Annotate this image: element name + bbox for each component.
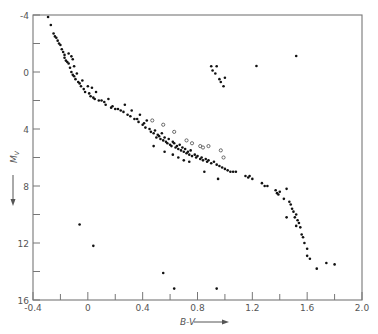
star-point xyxy=(300,233,303,236)
star-point xyxy=(302,236,305,239)
star-point xyxy=(136,118,139,121)
star-point xyxy=(283,198,286,201)
star-point xyxy=(162,139,165,142)
star-point xyxy=(261,182,264,185)
star-point xyxy=(143,122,146,125)
open-star-point xyxy=(185,139,188,142)
star-point xyxy=(210,65,213,68)
y-axis-title: MV xyxy=(9,150,20,163)
star-point xyxy=(73,65,76,68)
x-axis: -0.400.40.81.21.62.0 xyxy=(24,292,369,313)
star-point xyxy=(299,226,302,229)
star-point xyxy=(107,98,110,101)
star-point xyxy=(124,103,127,106)
y-axis-arrowhead xyxy=(11,199,16,206)
star-point xyxy=(295,55,298,58)
star-point xyxy=(161,132,164,135)
star-point xyxy=(211,69,214,72)
hr-diagram: -0.400.40.81.21.62.0 -40481216 B-V MV xyxy=(0,0,378,334)
star-point xyxy=(71,58,74,61)
star-point xyxy=(333,263,336,266)
star-point xyxy=(104,103,107,106)
star-point xyxy=(306,247,309,250)
star-point xyxy=(214,72,217,75)
star-point xyxy=(203,170,206,173)
star-point xyxy=(278,190,281,193)
star-point xyxy=(129,115,132,118)
star-point xyxy=(73,75,76,78)
star-point xyxy=(224,168,227,171)
star-point xyxy=(87,85,90,88)
star-point xyxy=(306,255,309,258)
star-point xyxy=(218,165,221,168)
star-point xyxy=(220,81,223,84)
star-point xyxy=(81,79,84,82)
star-point xyxy=(92,245,95,248)
star-point xyxy=(295,225,298,228)
open-star-point xyxy=(190,142,193,145)
star-point xyxy=(148,128,151,131)
star-point xyxy=(213,160,216,163)
star-point xyxy=(111,105,114,108)
x-tick-label: 0.4 xyxy=(136,303,151,313)
star-point xyxy=(173,287,176,290)
open-star-point xyxy=(162,123,165,126)
star-point xyxy=(98,99,101,102)
star-point xyxy=(130,109,133,112)
star-point xyxy=(229,170,232,173)
open-star-point xyxy=(173,130,176,133)
star-point xyxy=(137,121,140,124)
star-point xyxy=(154,129,157,132)
star-point xyxy=(296,219,299,222)
star-point xyxy=(152,145,155,148)
open-star-point xyxy=(151,119,154,122)
x-tick-label: 1.2 xyxy=(245,303,259,313)
star-point xyxy=(158,135,161,138)
y-tick-label: -4 xyxy=(20,11,29,21)
star-point xyxy=(177,148,180,151)
star-point xyxy=(119,109,122,112)
star-point xyxy=(180,149,183,152)
star-point xyxy=(62,51,65,54)
star-point xyxy=(294,216,297,219)
y-tick-label: 4 xyxy=(23,125,29,135)
star-point xyxy=(263,185,266,188)
star-point xyxy=(178,143,181,146)
star-point xyxy=(91,86,94,89)
y-tick-label: 0 xyxy=(23,68,29,78)
star-point xyxy=(70,71,73,74)
star-point xyxy=(176,145,179,148)
star-point xyxy=(285,216,288,219)
star-point xyxy=(189,149,192,152)
star-point xyxy=(159,138,162,141)
star-point xyxy=(266,185,269,188)
star-point xyxy=(235,170,238,173)
star-point xyxy=(277,193,280,196)
star-point xyxy=(188,153,191,156)
y-axis-title-group: MV xyxy=(9,150,20,163)
star-point xyxy=(50,24,53,27)
x-axis-arrowhead xyxy=(222,320,229,325)
x-tick-label: 0.8 xyxy=(190,303,205,313)
star-point xyxy=(80,85,83,88)
star-point xyxy=(55,37,58,40)
star-point xyxy=(285,188,288,191)
star-point xyxy=(122,111,125,114)
star-point xyxy=(303,242,306,245)
star-point xyxy=(244,175,247,178)
star-point xyxy=(162,272,165,275)
star-point xyxy=(170,145,173,148)
y-tick-label: 16 xyxy=(18,296,30,306)
star-point xyxy=(232,170,235,173)
star-point xyxy=(288,200,291,203)
star-point xyxy=(63,56,66,59)
y-tick-label: 8 xyxy=(23,182,29,192)
star-point xyxy=(133,118,136,121)
star-point xyxy=(218,78,221,81)
star-point xyxy=(60,48,63,51)
star-point xyxy=(67,62,70,65)
data-points xyxy=(47,16,336,290)
star-point xyxy=(144,126,147,129)
star-point xyxy=(215,163,218,166)
star-point xyxy=(47,16,50,19)
